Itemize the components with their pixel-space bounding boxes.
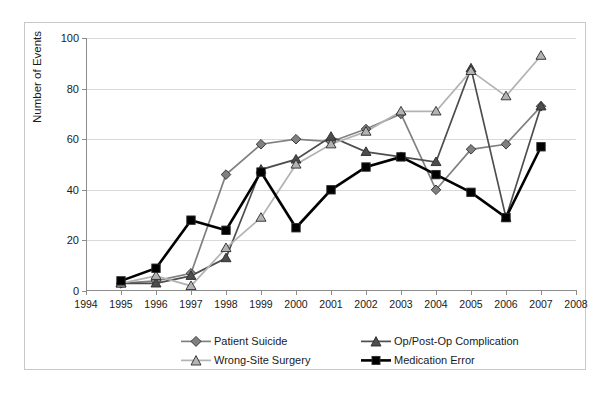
legend-label: Op/Post-Op Complication [394,335,519,347]
data-point-marker-square [467,188,475,196]
legend-entry-patient-suicide[interactable]: Patient Suicide [181,334,287,348]
series-line [121,56,541,286]
y-tick-label: 20 [67,234,79,246]
chart-figure: Number of Events 020406080100 1994199519… [24,22,586,370]
legend-label: Medication Error [394,354,475,366]
legend-marker-diamond-icon [181,334,211,348]
x-tick-label: 1997 [179,298,202,310]
data-point-marker-square [292,224,300,232]
data-point-marker-square [152,264,160,272]
legend-marker-triangle-icon [181,353,211,367]
y-tick-label: 80 [67,83,79,95]
legend-entry-op-post-op-complication[interactable]: Op/Post-Op Complication [361,334,519,348]
legend-marker-triangle-icon [361,334,391,348]
x-tick-label: 1995 [109,298,132,310]
data-point-marker-square [327,186,335,194]
series-line [121,147,541,281]
data-point-marker-triangle [536,51,546,60]
x-tick-label: 2007 [529,298,552,310]
x-tick-label: 1998 [214,298,237,310]
x-tick-label: 2003 [389,298,412,310]
x-tick-label: 2002 [354,298,377,310]
data-point-marker-square [257,168,265,176]
series-plot [86,38,576,291]
legend-entry-wrong-site-surgery[interactable]: Wrong-Site Surgery [181,353,310,367]
y-tick-label: 100 [61,32,79,44]
x-tick-label: 2000 [284,298,307,310]
data-point-marker-square [187,216,195,224]
chart-legend: Patient Suicide Wrong-Site Surgery Op/Po… [155,334,555,372]
data-point-marker-square [397,153,405,161]
x-tick-label: 2004 [424,298,447,310]
data-point-marker-square [362,163,370,171]
data-point-marker-diamond [291,134,301,144]
data-point-marker-square [432,170,440,178]
y-tick-label: 40 [67,184,79,196]
y-tick-label: 0 [73,285,79,297]
y-axis-title: Number of Events [31,31,43,123]
x-tick-label: 1999 [249,298,272,310]
data-point-marker-square [502,213,510,221]
legend-marker-square-icon [361,353,391,367]
legend-label: Wrong-Site Surgery [214,354,310,366]
x-tick-label: 2001 [319,298,342,310]
data-point-marker-triangle [256,213,266,222]
x-tick-label: 2008 [564,298,587,310]
y-tick-label: 60 [67,133,79,145]
x-tick-label: 1994 [74,298,97,310]
legend-entry-medication-error[interactable]: Medication Error [361,353,475,367]
data-point-marker-square [117,277,125,285]
x-tick-label: 2005 [459,298,482,310]
data-point-marker-square [222,226,230,234]
series-line [121,68,541,283]
x-tick-label: 1996 [144,298,167,310]
x-tick-label: 2006 [494,298,517,310]
legend-label: Patient Suicide [214,335,287,347]
data-point-marker-square [537,143,545,151]
data-point-marker-triangle [221,253,231,262]
plot-area: 020406080100 199419951996199719981999200… [86,38,576,291]
x-tick [576,290,577,295]
